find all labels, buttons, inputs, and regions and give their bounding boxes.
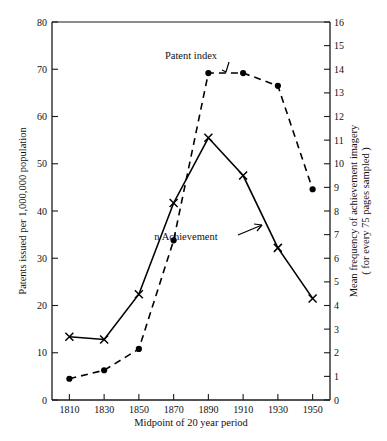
data-point-marker xyxy=(135,290,143,298)
right-tick-label: 0 xyxy=(334,395,339,406)
x-tick-label: 1950 xyxy=(303,404,323,415)
data-point-marker xyxy=(240,70,246,76)
series-layer xyxy=(65,70,316,382)
series-line xyxy=(69,73,312,379)
data-point-marker xyxy=(275,83,281,89)
data-point-marker xyxy=(205,70,211,76)
data-point-marker xyxy=(310,186,316,192)
right-tick-label: 10 xyxy=(334,158,344,169)
right-tick-label: 8 xyxy=(334,206,339,217)
left-tick-label: 30 xyxy=(37,253,47,264)
series-patent-index xyxy=(66,70,315,382)
left-tick-label: 70 xyxy=(37,64,47,75)
data-point-marker xyxy=(309,294,317,302)
right-tick-label: 6 xyxy=(334,253,339,264)
data-point-marker xyxy=(239,172,247,180)
x-tick-label: 1930 xyxy=(268,404,288,415)
x-tick-label: 1850 xyxy=(129,404,149,415)
left-tick-label: 0 xyxy=(42,395,47,406)
right-tick-label: 7 xyxy=(334,229,339,240)
x-tick-label: 1910 xyxy=(233,404,253,415)
data-point-marker xyxy=(66,376,72,382)
right-tick-label: 9 xyxy=(334,182,339,193)
right-tick-label: 15 xyxy=(334,40,344,51)
right-tick-label: 12 xyxy=(334,111,344,122)
right-tick-label: 16 xyxy=(334,17,344,28)
y-axis-title: Patents issued per 1,000,000 population xyxy=(17,127,28,295)
left-axis-ticks: 01020304050607080 xyxy=(37,17,58,406)
left-tick-label: 50 xyxy=(37,158,47,169)
data-point-marker xyxy=(204,134,212,142)
data-point-marker xyxy=(101,367,107,373)
data-point-marker xyxy=(274,244,282,252)
left-tick-label: 80 xyxy=(37,17,47,28)
right-tick-label: 1 xyxy=(334,371,339,382)
data-point-marker xyxy=(170,199,178,207)
y2-axis-title-line1: Mean frequency of achievement imagery xyxy=(348,124,359,297)
patents-vs-achievement-line-chart: 01020304050607080 0123456789101112131415… xyxy=(0,0,387,441)
right-tick-label: 4 xyxy=(334,300,339,311)
right-tick-label: 2 xyxy=(334,347,339,358)
x-tick-label: 1830 xyxy=(94,404,114,415)
right-tick-label: 3 xyxy=(334,324,339,335)
right-tick-label: 13 xyxy=(334,87,344,98)
annotation-leaders xyxy=(222,62,262,235)
x-tick-label: 1870 xyxy=(164,404,184,415)
right-tick-label: 5 xyxy=(334,276,339,287)
left-tick-label: 20 xyxy=(37,300,47,311)
left-tick-label: 40 xyxy=(37,206,47,217)
left-tick-label: 10 xyxy=(37,347,47,358)
chart-figure: 01020304050607080 0123456789101112131415… xyxy=(0,0,387,441)
plot-frame xyxy=(52,22,330,400)
x-axis-ticks: 18101830185018701890191019301950 xyxy=(59,394,322,415)
y2-axis-title-line2: ( for every 75 pages sampled ) xyxy=(360,147,372,275)
left-tick-label: 60 xyxy=(37,111,47,122)
patent-index-arrow-icon xyxy=(222,62,229,72)
x-tick-label: 1890 xyxy=(198,404,218,415)
right-axis-ticks: 012345678910111213141516 xyxy=(324,17,344,406)
annotation-patent-index: Patent index xyxy=(165,50,218,61)
x-axis-title: Midpoint of 20 year period xyxy=(134,417,248,428)
data-point-marker xyxy=(136,346,142,352)
annotation-n-achievement: n Achievement xyxy=(154,231,217,242)
right-tick-label: 11 xyxy=(334,135,344,146)
x-tick-label: 1810 xyxy=(59,404,79,415)
right-tick-label: 14 xyxy=(334,64,344,75)
